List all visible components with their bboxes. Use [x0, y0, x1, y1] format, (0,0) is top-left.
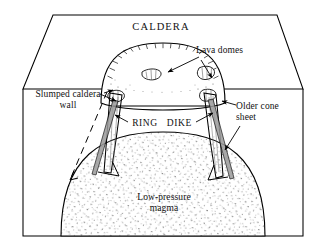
label-low-pressure-magma: Low-pressure magma: [106, 192, 222, 213]
lava-dome-left: [142, 69, 161, 80]
caldera-cross-section-figure: CALDERA Lava domes Slumped caldera wall …: [0, 0, 322, 246]
label-slumped-caldera-wall: Slumped caldera wall: [16, 89, 120, 110]
label-ring-dike: RING DIKE: [116, 118, 208, 129]
label-older-cone-sheet: Older cone sheet: [236, 101, 308, 122]
magma-chamber: [61, 132, 265, 236]
label-caldera: CALDERA: [113, 21, 209, 33]
label-lava-domes: Lava domes: [196, 45, 280, 56]
